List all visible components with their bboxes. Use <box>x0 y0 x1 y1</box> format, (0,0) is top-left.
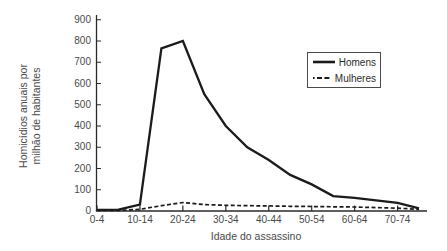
y-axis-ticks <box>97 20 102 190</box>
x-tick-label-0-4: 0-4 <box>75 214 119 226</box>
legend: Homens Mulheres <box>307 52 381 88</box>
y-tick-label-600: 600 <box>55 78 91 90</box>
legend-label-mulheres: Mulheres <box>335 73 376 84</box>
y-tick-label-400: 400 <box>55 120 91 132</box>
x-tick-label-20-24: 20-24 <box>161 214 205 226</box>
y-tick-label-700: 700 <box>55 56 91 68</box>
y-tick-label-100: 100 <box>55 184 91 196</box>
x-tick-label-50-54: 50-54 <box>290 214 334 226</box>
x-tick-label-10-14: 10-14 <box>118 214 162 226</box>
chart-figure: Homicídios anuais por milhão de habitant… <box>0 0 447 251</box>
y-tick-label-900: 900 <box>55 14 91 26</box>
legend-swatch-solid-line <box>312 58 335 66</box>
legend-item-mulheres: Mulheres <box>312 71 376 85</box>
legend-swatch-dash-dot-line <box>312 74 331 82</box>
x-tick-label-60-64: 60-64 <box>333 214 377 226</box>
y-axis-title-line2: milhão de habitantes <box>30 68 42 165</box>
legend-label-homens: Homens <box>339 57 376 68</box>
y-tick-label-800: 800 <box>55 35 91 47</box>
y-axis-title: Homicídios anuais por milhão de habitant… <box>17 16 45 216</box>
series-line-mulheres <box>97 203 419 211</box>
y-tick-label-300: 300 <box>55 141 91 153</box>
x-tick-label-40-44: 40-44 <box>247 214 291 226</box>
x-tick-label-70-74: 70-74 <box>376 214 420 226</box>
x-axis-title: Idade do assassino <box>180 230 332 242</box>
y-tick-label-200: 200 <box>55 163 91 175</box>
y-axis-title-line1: Homicídios anuais por <box>17 64 29 168</box>
x-tick-label-30-34: 30-34 <box>204 214 248 226</box>
legend-item-homens: Homens <box>312 55 376 69</box>
y-tick-label-500: 500 <box>55 99 91 111</box>
